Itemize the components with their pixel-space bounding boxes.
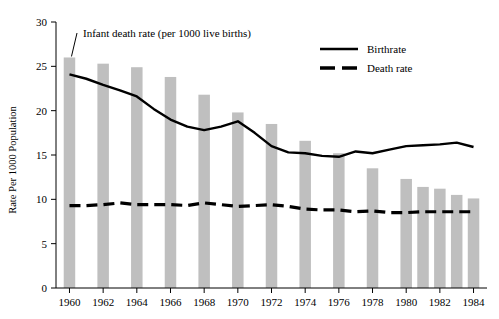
bar [64, 57, 76, 288]
y-tick-label: 10 [36, 193, 48, 205]
x-tick-label: 1960 [58, 296, 81, 308]
bar [165, 77, 177, 288]
y-axis-title: Rate Per 1000 Population [7, 105, 18, 213]
y-tick-label: 15 [36, 149, 48, 161]
x-tick-label: 1974 [294, 296, 317, 308]
x-tick-label: 1966 [159, 296, 182, 308]
bar [97, 64, 109, 288]
x-tick-label: 1984 [463, 296, 486, 308]
legend-label: Birthrate [367, 43, 406, 55]
legend-label: Death rate [367, 62, 413, 74]
x-tick-label: 1962 [92, 296, 114, 308]
y-tick-label: 20 [36, 105, 48, 117]
chart-figure: 051015202530 196019621964196619681970197… [0, 0, 499, 319]
bar [400, 179, 412, 288]
y-tick-label: 25 [36, 60, 48, 72]
chart-container: 051015202530 196019621964196619681970197… [0, 0, 499, 319]
x-tick-label: 1976 [328, 296, 351, 308]
y-tick-label: 5 [42, 238, 48, 250]
bar [417, 187, 429, 288]
bar [299, 141, 311, 288]
bar [367, 168, 379, 288]
x-tick-label: 1978 [362, 296, 385, 308]
bar [198, 95, 210, 288]
x-tick-label: 1980 [395, 296, 418, 308]
bar [451, 195, 463, 288]
y-tick-label: 30 [36, 16, 48, 28]
annotation-label: Infant death rate (per 1000 live births) [83, 27, 251, 40]
x-tick-label: 1964 [126, 296, 149, 308]
x-tick-label: 1982 [429, 296, 451, 308]
bar [232, 112, 244, 288]
y-tick-label: 0 [42, 282, 48, 294]
bar [333, 153, 345, 288]
x-tick-label: 1970 [227, 296, 250, 308]
x-tick-label: 1972 [261, 296, 283, 308]
plot-area: 051015202530 196019621964196619681970197… [0, 0, 499, 319]
bar [434, 189, 446, 288]
x-tick-label: 1968 [193, 296, 216, 308]
